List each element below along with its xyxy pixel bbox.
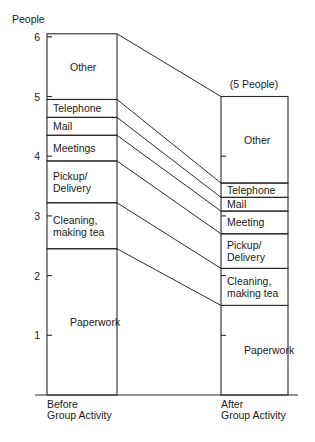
connector-line	[117, 249, 221, 306]
segment-label: making tea	[53, 226, 105, 238]
bar-segment-other: Other	[47, 34, 117, 100]
connector-line	[117, 203, 221, 269]
bar-segment-mail: Mail	[47, 117, 117, 135]
segment-label: Meeting	[227, 216, 265, 228]
y-tick-label: 6	[34, 31, 40, 43]
segment-label: Mail	[53, 120, 72, 132]
connector-line	[117, 161, 221, 234]
segment-label: Paperwork	[244, 344, 295, 356]
connector-lines	[117, 34, 221, 306]
segment-label: Cleaning,	[227, 275, 271, 287]
category-label: Group Activity	[221, 409, 287, 421]
segment-label: Meetings	[53, 142, 96, 154]
bar-segment-meetings: Meeting	[221, 211, 288, 234]
bar-segment-pickup-delivery: Pickup/Delivery	[221, 234, 288, 269]
after-total-annotation: (5 People)	[230, 78, 278, 90]
bar-segment-paperwork: Paperwork	[221, 305, 295, 395]
connector-line	[117, 135, 221, 211]
segment-label: Telephone	[227, 184, 276, 196]
segment-label: Other	[244, 134, 271, 146]
segment-label: Cleaning,	[53, 214, 97, 226]
y-tick-label: 2	[34, 270, 40, 282]
segment-label: Other	[70, 61, 97, 73]
connector-line	[117, 99, 221, 183]
y-tick-label: 1	[34, 329, 40, 341]
y-tick-label: 3	[34, 210, 40, 222]
bar-segment-other: Other	[221, 97, 288, 184]
bar-segment-mail: Mail	[221, 197, 288, 211]
stacked-bar-chart: People 123456 PaperworkCleaning,making t…	[0, 0, 315, 442]
bar-segment-telephone: Telephone	[47, 99, 117, 117]
y-tick-label: 4	[34, 150, 40, 162]
category-label: Group Activity	[47, 409, 113, 421]
connector-line	[117, 34, 221, 97]
bar-segment-paperwork: Paperwork	[47, 249, 121, 395]
y-tick-label: 5	[34, 91, 40, 103]
bar-segment-cleaning-making-tea: Cleaning,making tea	[47, 203, 117, 249]
bar-segment-telephone: Telephone	[221, 183, 288, 197]
bar-segment-cleaning-making-tea: Cleaning,making tea	[221, 268, 288, 305]
segment-label: Delivery	[227, 251, 266, 263]
segment-label: Telephone	[53, 102, 102, 114]
segment-label: Pickup/	[227, 239, 262, 251]
bar-segment-pickup-delivery: Pickup/Delivery	[47, 161, 117, 203]
segment-label: Delivery	[53, 182, 92, 194]
y-axis-title: People	[12, 13, 45, 25]
segment-label: Paperwork	[70, 316, 121, 328]
bar-segment-meetings: Meetings	[47, 135, 117, 161]
segment-label: making tea	[227, 287, 279, 299]
segment-label: Mail	[227, 198, 246, 210]
segment-label: Pickup/	[53, 170, 88, 182]
category-labels: BeforeGroup ActivityAfterGroup Activity	[47, 398, 287, 421]
connector-line	[117, 117, 221, 197]
